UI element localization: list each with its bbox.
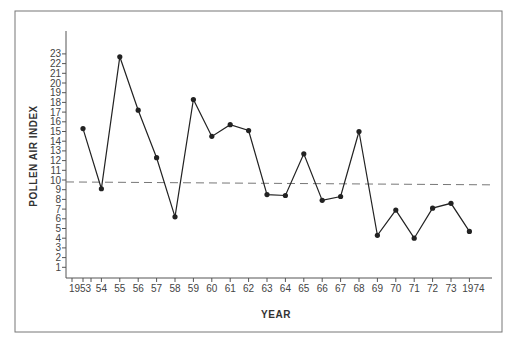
x-tick-label: 71 — [409, 283, 421, 294]
y-tick-label: 14 — [50, 136, 62, 147]
y-tick-label: 13 — [50, 145, 62, 156]
data-series — [80, 54, 472, 241]
data-point — [467, 229, 472, 234]
data-point — [80, 126, 85, 131]
data-point — [154, 155, 159, 160]
data-point — [301, 151, 306, 156]
y-tick-label: 15 — [50, 126, 62, 137]
y-tick-label: 21 — [50, 68, 62, 79]
data-point — [448, 201, 453, 206]
x-tick-label: 68 — [353, 283, 365, 294]
y-tick-label: 3 — [55, 242, 61, 253]
y-tick-label: 10 — [50, 175, 62, 186]
y-tick-label: 12 — [50, 155, 62, 166]
data-point — [191, 97, 196, 102]
y-tick-label: 18 — [50, 97, 62, 108]
y-tick-label: 22 — [50, 58, 62, 69]
y-tick-label: 8 — [55, 194, 61, 205]
x-tick-label: 1953 — [69, 283, 92, 294]
x-tick-label: 54 — [96, 283, 108, 294]
x-tick-label: 61 — [225, 283, 237, 294]
x-axis: 1953545556575859606162636465666768697071… — [66, 278, 492, 294]
x-axis-title: YEAR — [261, 309, 291, 320]
x-tick-label: 67 — [335, 283, 347, 294]
x-tick-label: 65 — [298, 283, 310, 294]
data-point — [375, 233, 380, 238]
trend-line — [66, 182, 493, 185]
x-tick-label: 59 — [188, 283, 200, 294]
x-tick-label: 1974 — [462, 283, 485, 294]
y-tick-label: 7 — [55, 204, 61, 215]
data-point — [264, 192, 269, 197]
x-tick-label: 64 — [280, 283, 292, 294]
y-tick-label: 16 — [50, 116, 62, 127]
x-tick-label: 58 — [169, 283, 181, 294]
data-point — [99, 186, 104, 191]
x-tick-label: 66 — [317, 283, 329, 294]
x-tick-label: 62 — [243, 283, 255, 294]
y-tick-label: 9 — [55, 184, 61, 195]
y-tick-label: 20 — [50, 78, 62, 89]
y-tick-label: 11 — [51, 165, 62, 176]
data-point — [393, 207, 398, 212]
y-tick-label: 23 — [50, 48, 62, 59]
x-tick-label: 72 — [427, 283, 439, 294]
x-tick-label: 70 — [390, 283, 402, 294]
x-tick-label: 63 — [261, 283, 273, 294]
y-tick-label: 6 — [55, 213, 61, 224]
data-point — [356, 129, 361, 134]
x-tick-label: 57 — [151, 283, 163, 294]
pollen-chart: 1234567891011121314151617181920212223 19… — [0, 0, 511, 345]
data-point — [209, 134, 214, 139]
y-axis: 1234567891011121314151617181920212223 — [50, 31, 66, 278]
data-point — [283, 193, 288, 198]
data-point — [412, 236, 417, 241]
data-point — [117, 54, 122, 59]
y-axis-title: POLLEN AIR INDEX — [28, 105, 39, 207]
y-tick-label: 5 — [55, 223, 61, 234]
y-tick-label: 4 — [55, 233, 61, 244]
x-tick-label: 73 — [445, 283, 457, 294]
y-tick-label: 2 — [55, 252, 61, 263]
y-tick-label: 17 — [50, 107, 62, 118]
x-tick-label: 69 — [372, 283, 384, 294]
data-point — [136, 108, 141, 113]
x-tick-label: 56 — [133, 283, 145, 294]
data-point — [246, 128, 251, 133]
x-tick-label: 55 — [114, 283, 126, 294]
y-tick-label: 1 — [55, 262, 61, 273]
data-point — [320, 198, 325, 203]
x-tick-label: 60 — [206, 283, 218, 294]
data-point — [338, 194, 343, 199]
data-point — [228, 122, 233, 127]
y-tick-label: 19 — [50, 87, 62, 98]
data-point — [430, 206, 435, 211]
data-point — [172, 214, 177, 219]
